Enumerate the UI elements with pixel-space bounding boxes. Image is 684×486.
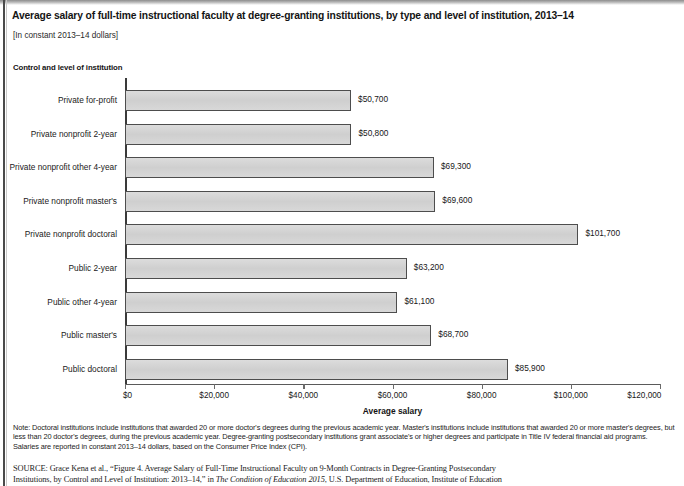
x-axis-tick xyxy=(125,384,126,389)
bar xyxy=(125,90,351,111)
chart-subtitle: [In constant 2013–14 dollars] xyxy=(13,31,118,40)
bar-row: $61,100Public other 4-year xyxy=(125,292,660,313)
bar-value-label: $63,200 xyxy=(414,262,444,272)
bar xyxy=(125,292,397,313)
x-axis-title: Average salary xyxy=(125,406,660,416)
bar-value-label: $68,700 xyxy=(438,329,468,339)
scan-top-band xyxy=(0,0,684,5)
bar-value-label: $85,900 xyxy=(515,363,545,373)
bar xyxy=(125,258,407,279)
bar xyxy=(125,157,434,178)
x-axis-tick xyxy=(660,384,661,389)
x-axis-tick xyxy=(214,384,215,389)
source-line-2-post: , U.S. Department of Education, Institut… xyxy=(325,475,502,484)
scan-left-rule xyxy=(3,0,5,486)
bar-value-label: $50,700 xyxy=(358,94,388,104)
x-axis-tick xyxy=(393,384,394,389)
x-axis-tick-label: $40,000 xyxy=(289,391,319,400)
bar-row: $69,600Private nonprofit master's xyxy=(125,191,660,212)
x-axis-tick xyxy=(571,384,572,389)
bar-row: $63,200Public 2-year xyxy=(125,258,660,279)
category-label: Private nonprofit other 4-year xyxy=(10,162,117,172)
category-label: Private nonprofit 2-year xyxy=(31,129,117,139)
scan-left-rule-secondary xyxy=(6,0,7,486)
category-label: Private nonprofit master's xyxy=(23,196,117,206)
category-label: Private nonprofit doctoral xyxy=(25,229,117,239)
bar-row: $68,700Public master's xyxy=(125,325,660,346)
bar-row: $50,700Private for-profit xyxy=(125,90,660,111)
category-label: Public master's xyxy=(61,330,117,340)
x-axis-tick-label: $100,000 xyxy=(554,391,588,400)
bar-value-label: $61,100 xyxy=(404,296,434,306)
bar-row: $85,900Public doctoral xyxy=(125,359,660,380)
x-axis-tick-label: $20,000 xyxy=(199,391,229,400)
page-title: Average salary of full-time instructiona… xyxy=(12,10,674,22)
figure-source: SOURCE: Grace Kena et al., “Figure 4. Av… xyxy=(13,464,675,485)
x-axis-tick xyxy=(303,384,304,389)
category-label: Private for-profit xyxy=(58,95,117,105)
bar-value-label: $101,700 xyxy=(585,228,620,238)
bar-row: $101,700Private nonprofit doctoral xyxy=(125,224,660,245)
x-axis-tick xyxy=(482,384,483,389)
bar-value-label: $69,600 xyxy=(442,195,472,205)
source-publication-title: The Condition of Education 2015 xyxy=(216,475,325,484)
figure-page: Average salary of full-time instructiona… xyxy=(0,0,684,486)
bar xyxy=(125,191,435,212)
bar xyxy=(125,124,351,145)
y-axis-group-label: Control and level of institution xyxy=(13,63,122,72)
category-label: Public doctoral xyxy=(63,364,117,374)
bar-row: $69,300Private nonprofit other 4-year xyxy=(125,157,660,178)
source-kicker: SOURCE: xyxy=(13,464,48,473)
category-label: Public other 4-year xyxy=(47,297,117,307)
x-axis-tick-label: $80,000 xyxy=(467,391,497,400)
source-line-1: Grace Kena et al., “Figure 4. Average Sa… xyxy=(48,464,496,473)
bar-value-label: $69,300 xyxy=(441,161,471,171)
source-line-2-pre: Institutions, by Control and Level of In… xyxy=(13,475,216,484)
x-axis-tick-label: $60,000 xyxy=(378,391,408,400)
bar-row: $50,800Private nonprofit 2-year xyxy=(125,124,660,145)
x-axis-tick-label: $0 xyxy=(123,391,132,400)
figure-note: Note: Doctoral institutions include inst… xyxy=(13,423,675,451)
x-axis-tick-label: $120,000 xyxy=(627,391,661,400)
bar xyxy=(125,224,578,245)
bar-chart-plot-area: $50,700Private for-profit$50,800Private … xyxy=(125,78,660,384)
bar xyxy=(125,359,508,380)
bar-value-label: $50,800 xyxy=(358,128,388,138)
bar xyxy=(125,325,431,346)
category-label: Public 2-year xyxy=(69,263,117,273)
